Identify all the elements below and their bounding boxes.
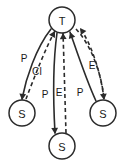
edge-label-e4: E xyxy=(56,87,63,98)
arrowhead-s3-to-t xyxy=(77,26,86,35)
node-label-t: T xyxy=(59,15,66,27)
node-s3[interactable]: S xyxy=(90,100,116,126)
edge-label-e6: E xyxy=(89,60,96,71)
edge-t-to-s2 xyxy=(54,33,57,133)
edge-label-e2: CI xyxy=(32,66,42,77)
node-label-s2: S xyxy=(58,141,65,153)
node-s2[interactable]: S xyxy=(49,133,75,159)
edge-labels-layer: PCIPEPE xyxy=(21,53,96,100)
edge-s2-to-t xyxy=(63,33,66,133)
node-label-s1: S xyxy=(18,108,25,120)
graph-diagram: PCIPEPE TSSS xyxy=(0,0,124,168)
node-label-s3: S xyxy=(99,108,106,120)
diagram-canvas: PCIPEPE TSSS xyxy=(0,0,124,168)
edge-label-e1: P xyxy=(21,53,28,64)
arrowhead-s2-to-t xyxy=(60,33,67,39)
node-t[interactable]: T xyxy=(49,7,75,33)
edge-label-e3: P xyxy=(42,89,49,100)
node-s1[interactable]: S xyxy=(9,100,35,126)
edge-label-e5: P xyxy=(77,87,84,98)
